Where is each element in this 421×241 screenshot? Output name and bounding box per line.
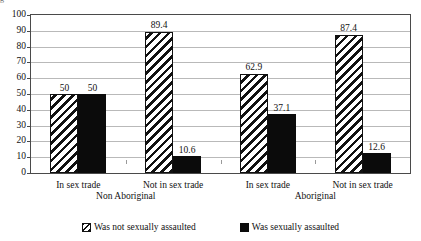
- bar: [240, 74, 268, 173]
- x-axis-tick-mark: [126, 160, 127, 164]
- x-axis-category-label: In sex trade: [221, 180, 316, 192]
- bar: [335, 35, 363, 173]
- legend-label: Was sexually assaulted: [252, 222, 339, 232]
- bar-value-label: 10.6: [166, 145, 208, 155]
- bar: [268, 114, 296, 173]
- bar-chart: g 1009080706050403020100 505089.410.662.…: [0, 0, 421, 241]
- x-axis-category-label: In sex trade: [31, 180, 126, 192]
- bar-value-label: 12.6: [356, 142, 398, 152]
- bar: [363, 153, 391, 173]
- chart-legend: Was not sexually assaultedWas sexually a…: [0, 219, 421, 235]
- y-axis-tick-label: 80: [0, 42, 26, 52]
- y-axis-tick-label: 50: [0, 89, 26, 99]
- y-axis-tick-label: 20: [0, 136, 26, 146]
- bar: [50, 94, 78, 173]
- bar-value-label: 89.4: [138, 20, 180, 30]
- legend-item: Was not sexually assaulted: [82, 222, 196, 232]
- x-axis-tick-mark: [315, 160, 316, 164]
- bar-value-label: 37.1: [261, 103, 303, 113]
- y-axis-tick-label: 90: [0, 26, 26, 36]
- bar: [173, 156, 201, 173]
- legend-label: Was not sexually assaulted: [94, 222, 196, 232]
- y-axis-tick-label: 60: [0, 73, 26, 83]
- bar-value-label: 87.4: [328, 23, 370, 33]
- bar-value-label: 50: [71, 83, 113, 93]
- y-axis-tick-label: 40: [0, 105, 26, 115]
- legend-item: Was sexually assaulted: [240, 222, 339, 232]
- x-axis-group-label: Aboriginal: [221, 191, 411, 203]
- x-axis-category-label: Not in sex trade: [315, 180, 410, 192]
- y-axis-tick-mark: [27, 173, 31, 174]
- y-axis-tick-label: 100: [0, 10, 26, 20]
- y-axis-tick-label: 0: [0, 168, 26, 178]
- hatch-swatch-icon: [82, 223, 91, 232]
- x-axis-category-label: Not in sex trade: [126, 180, 221, 192]
- clipped-title-text: g: [0, 0, 421, 3]
- y-axis-tick-label: 70: [0, 57, 26, 67]
- bar-value-label: 62.9: [233, 62, 275, 72]
- x-axis-tick-mark: [221, 160, 222, 164]
- bars-layer: 505089.410.662.937.187.412.6: [31, 15, 410, 173]
- bar: [78, 94, 106, 173]
- y-axis-tick-label: 10: [0, 152, 26, 162]
- solid-swatch-icon: [240, 223, 249, 232]
- y-axis-tick-label: 30: [0, 121, 26, 131]
- x-axis-group-label: Non Aboriginal: [31, 191, 221, 203]
